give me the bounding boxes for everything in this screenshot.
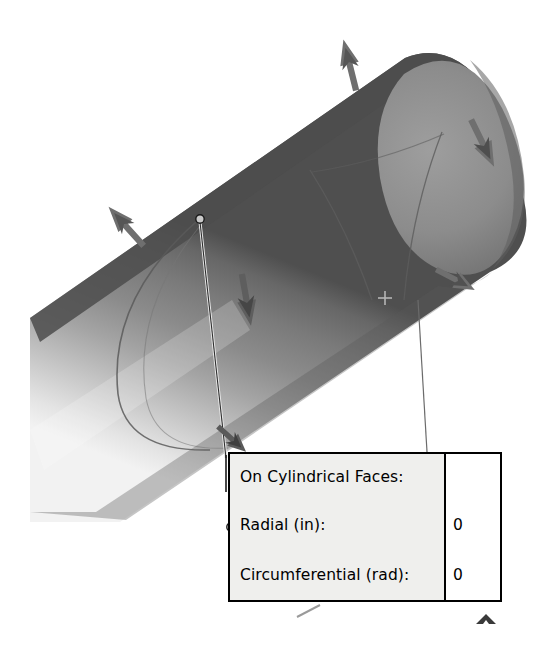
callout-table[interactable]: On Cylindrical Faces: Radial (in): 0 Cir… <box>228 452 502 602</box>
table-row[interactable]: Circumferential (rad): 0 <box>229 550 501 601</box>
radial-label: Radial (in): <box>229 500 445 550</box>
chevron-up-icon[interactable] <box>476 614 496 624</box>
below-table-marks <box>297 605 496 624</box>
radial-value[interactable]: 0 <box>445 500 501 550</box>
node-marker-top[interactable] <box>196 215 204 223</box>
table-row[interactable]: Radial (in): 0 <box>229 500 501 550</box>
circumferential-value[interactable]: 0 <box>445 550 501 601</box>
restraint-arrow-top-center[interactable] <box>334 37 365 93</box>
tick-mark <box>297 605 320 617</box>
screenshot-canvas: On Cylindrical Faces: Radial (in): 0 Cir… <box>0 0 556 655</box>
leader-line-right <box>418 300 427 452</box>
restraint-arrow-top-left[interactable] <box>102 201 151 253</box>
table-row[interactable]: On Cylindrical Faces: <box>229 453 501 500</box>
callout-title: On Cylindrical Faces: <box>229 453 445 500</box>
circumferential-label: Circumferential (rad): <box>229 550 445 601</box>
callout-title-value <box>445 453 501 500</box>
